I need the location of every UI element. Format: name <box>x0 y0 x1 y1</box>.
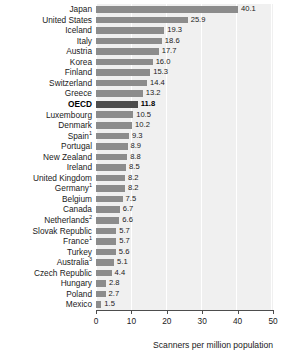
bar-value-label: 18.6 <box>165 36 180 47</box>
bar-row: Belgium7.5 <box>0 194 283 205</box>
bar-row: OECD11.8 <box>0 99 283 110</box>
bar-row-label: New Zealand <box>0 152 92 163</box>
bar-row: Switzerland14.4 <box>0 78 283 89</box>
bar-row-label: Netherlands2 <box>0 215 92 226</box>
bar-row: Denmark10.2 <box>0 120 283 131</box>
bar <box>96 143 128 150</box>
bar-row-label: Poland <box>0 289 92 300</box>
bar-row: Luxembourg10.5 <box>0 110 283 121</box>
bar-row-label: Mexico <box>0 299 92 310</box>
bar-row: Australia35.1 <box>0 257 283 268</box>
x-axis-tick <box>167 310 168 314</box>
bar-row: France15.7 <box>0 236 283 247</box>
bar <box>96 90 143 97</box>
bar-row-label: OECD <box>0 99 92 110</box>
bar-row-label: France1 <box>0 236 92 247</box>
x-axis-tick <box>131 310 132 314</box>
bar-value-label: 7.5 <box>126 194 137 205</box>
bar <box>96 259 114 266</box>
bar <box>96 175 125 182</box>
bar-row-label: United Kingdom <box>0 173 92 184</box>
bar-value-label: 4.4 <box>115 268 126 279</box>
bar-row-label: Spain1 <box>0 131 92 142</box>
bar-value-label: 8.8 <box>130 152 141 163</box>
bar-row: Spain19.3 <box>0 131 283 142</box>
bar-value-label: 9.3 <box>132 131 143 142</box>
bar <box>96 111 133 118</box>
bar-row: United States25.9 <box>0 15 283 26</box>
bar-row-label: Hungary <box>0 278 92 289</box>
bar-row: Italy18.6 <box>0 36 283 47</box>
bar-row-label: Turkey <box>0 247 92 258</box>
bar-row-label: Denmark <box>0 120 92 131</box>
bar-row-label: Austria <box>0 46 92 57</box>
bar-value-label: 8.2 <box>128 183 139 194</box>
x-axis-tick <box>202 310 203 314</box>
bar-value-label: 5.1 <box>117 257 128 268</box>
bar <box>96 301 101 308</box>
bar-row: Mexico1.5 <box>0 299 283 310</box>
bar-value-label: 14.4 <box>150 78 165 89</box>
bar-value-label: 16.0 <box>156 57 171 68</box>
bar <box>96 133 129 140</box>
bar <box>96 206 120 213</box>
bar-value-label: 1.5 <box>104 299 115 310</box>
x-axis-line <box>96 310 273 311</box>
bar-value-label: 13.2 <box>146 88 161 99</box>
bar-row-label: Iceland <box>0 25 92 36</box>
x-axis-tick-label: 10 <box>127 316 136 326</box>
bar-value-label: 8.9 <box>131 141 142 152</box>
bar-row-label: Portugal <box>0 141 92 152</box>
bar-row: Turkey5.6 <box>0 247 283 258</box>
bar-row: Finland15.3 <box>0 67 283 78</box>
bar-row: Germany18.2 <box>0 183 283 194</box>
x-axis-tick <box>96 310 97 314</box>
bar-row-label: Switzerland <box>0 78 92 89</box>
bar-value-label: 40.1 <box>241 4 256 15</box>
bar <box>96 69 150 76</box>
bar-row: Slovak Republic5.7 <box>0 226 283 237</box>
bar-row: Netherlands26.6 <box>0 215 283 226</box>
bar-row: New Zealand8.8 <box>0 152 283 163</box>
bar-row-label: Japan <box>0 4 92 15</box>
bar-row-label: Australia3 <box>0 257 92 268</box>
bar <box>96 27 164 34</box>
bar <box>96 154 127 161</box>
bar-value-label: 6.6 <box>122 215 133 226</box>
bar-value-label: 8.2 <box>128 173 139 184</box>
bar <box>96 122 132 129</box>
bar <box>96 280 106 287</box>
bar-row: Korea16.0 <box>0 57 283 68</box>
bar-value-label: 5.6 <box>119 247 130 258</box>
bar <box>96 291 106 298</box>
footnote-marker: 1 <box>89 130 92 136</box>
bar-row: Austria17.7 <box>0 46 283 57</box>
bar-value-label: 2.7 <box>109 289 120 300</box>
scanners-per-million-bar-chart: Japan40.1United States25.9Iceland19.3Ita… <box>0 0 283 364</box>
bar-value-label: 6.7 <box>123 204 134 215</box>
bar-row-label: Slovak Republic <box>0 226 92 237</box>
bar <box>96 38 162 45</box>
bar-row: Portugal8.9 <box>0 141 283 152</box>
bar-row: Canada6.7 <box>0 204 283 215</box>
bar <box>96 17 188 24</box>
bar <box>96 48 159 55</box>
bar-value-label: 10.5 <box>136 110 151 121</box>
bar-row-label: Italy <box>0 36 92 47</box>
footnote-marker: 2 <box>89 214 92 220</box>
bar-row-label: Luxembourg <box>0 110 92 121</box>
bar-row: Ireland8.5 <box>0 162 283 173</box>
bar-value-label: 15.3 <box>153 67 168 78</box>
bar-value-label: 25.9 <box>191 15 206 26</box>
bar-value-label: 5.7 <box>119 236 130 247</box>
bar-row-label: Canada <box>0 204 92 215</box>
bar-value-label: 17.7 <box>162 46 177 57</box>
bar <box>96 185 125 192</box>
bar-rows: Japan40.1United States25.9Iceland19.3Ita… <box>0 4 283 310</box>
bar-value-label: 10.2 <box>135 120 150 131</box>
x-axis-tick-label: 20 <box>162 316 171 326</box>
bar-row-label: Finland <box>0 67 92 78</box>
x-axis-tick <box>273 310 274 314</box>
x-axis-tick-label: 40 <box>233 316 242 326</box>
bar <box>96 164 126 171</box>
